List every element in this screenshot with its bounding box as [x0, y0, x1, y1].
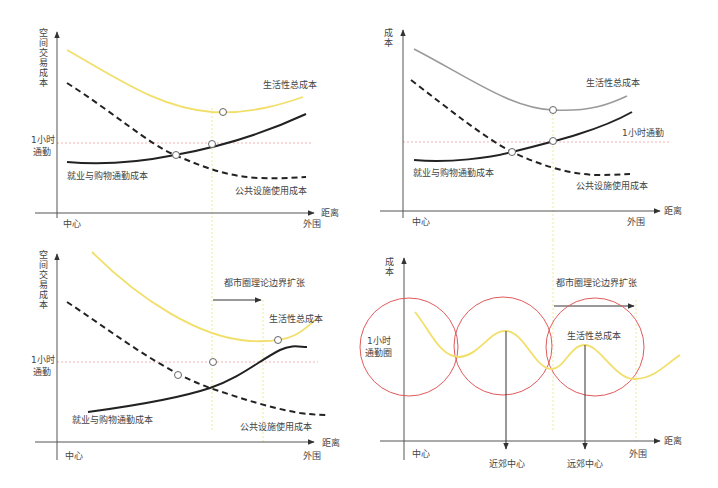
y-axis-label: 成 本 — [385, 256, 397, 277]
total-cost-label: 生活性总成本 — [263, 79, 317, 90]
y-axis-label: 空 间 交 易 成 本 — [39, 27, 51, 88]
intersection-point — [509, 149, 516, 156]
one-hour-point — [209, 141, 216, 148]
x-end-label: 外围 — [303, 218, 321, 229]
panel-top-right: 成 本 1小时通勤 生活性总成本 就业与购物通勤成本 公共设施使用成本 距离 中… — [380, 27, 682, 240]
original-intersection-point — [175, 372, 182, 379]
total-cost-min-point — [275, 337, 282, 344]
facility-cost-label: 公共设施使用成本 — [235, 185, 307, 196]
diagram-canvas: 空 间 交 易 成 本 1小时 通勤 生活性总成本 就业与购物通勤成本 公共设施… — [0, 0, 718, 488]
commute-cost-curve — [67, 114, 306, 163]
y-axis-label: 空 间 交 易 成 本 — [39, 249, 51, 310]
y-axis-label: 成 本 — [384, 27, 396, 48]
one-hour-label: 1小时 通勤 — [31, 354, 58, 377]
x-end-label: 外围 — [627, 216, 645, 227]
total-cost-curve — [92, 252, 318, 341]
panel-bottom-left: 空 间 交 易 成 本 1小时 通勤 都市圈理论边界扩张 生活性总成本 就业与购… — [31, 240, 340, 461]
total-cost-label: 生活性总成本 — [567, 330, 621, 341]
commute-circle-near — [454, 297, 552, 395]
circle-label: 1小时 通勤圈 — [365, 335, 394, 358]
origin-label: 中心 — [412, 448, 430, 459]
commute-cost-label: 就业与购物通勤成本 — [67, 170, 148, 181]
far-center-label: 远郊中心 — [567, 458, 603, 469]
x-axis-label: 距离 — [664, 205, 682, 216]
expansion-label: 都市圈理论边界扩张 — [224, 277, 305, 288]
facility-cost-label: 公共设施使用成本 — [240, 421, 312, 432]
one-hour-point — [210, 359, 217, 366]
commute-cost-curve — [88, 346, 307, 412]
panel-top-left: 空 间 交 易 成 本 1小时 通勤 生活性总成本 就业与购物通勤成本 公共设施… — [31, 27, 339, 240]
total-cost-label: 生活性总成本 — [269, 313, 323, 324]
x-axis-label: 距离 — [321, 207, 339, 218]
expansion-label: 都市圈理论边界扩张 — [556, 277, 637, 288]
origin-label: 中心 — [65, 450, 83, 461]
commute-circle-far — [546, 298, 644, 396]
origin-label: 中心 — [63, 218, 81, 229]
panel-bottom-right: 成 本 1小时 通勤圈 都市圈理论边界扩张 生活性总成本 距离 中心 外围 近郊… — [360, 240, 682, 469]
near-center-label: 近郊中心 — [489, 458, 525, 469]
intersection-point — [173, 152, 180, 159]
facility-cost-label: 公共设施使用成本 — [576, 180, 648, 191]
commute-cost-curve — [414, 112, 632, 161]
one-hour-point — [550, 138, 557, 145]
x-end-label: 外围 — [303, 450, 321, 461]
total-cost-min-point — [220, 109, 227, 116]
commute-circle-center — [360, 298, 458, 396]
commute-cost-label: 就业与购物通勤成本 — [413, 167, 494, 178]
total-cost-wave — [415, 312, 680, 379]
total-cost-label: 生活性总成本 — [586, 77, 640, 88]
x-axis-label: 距离 — [664, 435, 682, 446]
one-hour-label: 1小时通勤 — [622, 127, 664, 138]
x-end-label: 外围 — [629, 448, 647, 459]
total-cost-min-point — [550, 107, 557, 114]
one-hour-label: 1小时 通勤 — [31, 134, 58, 157]
x-axis-label: 距离 — [322, 437, 340, 448]
commute-cost-label: 就业与购物通勤成本 — [72, 414, 153, 425]
origin-label: 中心 — [412, 216, 430, 227]
